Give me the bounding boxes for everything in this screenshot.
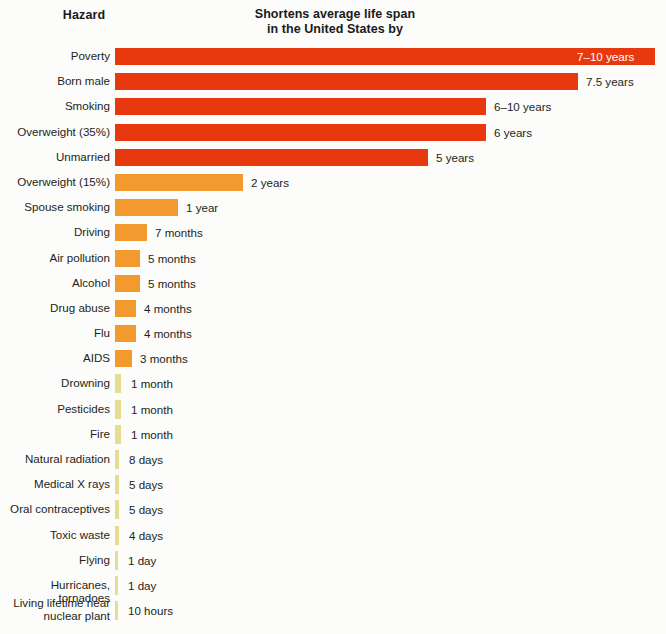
bar-row: Spouse smoking1 year bbox=[0, 195, 666, 220]
bar-row: Fire1 month bbox=[0, 422, 666, 447]
bar bbox=[115, 425, 121, 444]
bar-value-label: 4 months bbox=[144, 302, 192, 315]
bar bbox=[115, 275, 140, 292]
bar-row: AIDS3 months bbox=[0, 346, 666, 371]
bar bbox=[115, 98, 486, 115]
bar-row-label: Air pollution bbox=[0, 251, 110, 264]
bar-value-label: 6 years bbox=[494, 126, 532, 139]
bar-row-label: Toxic waste bbox=[0, 528, 110, 541]
bar-value-label: 1 month bbox=[131, 403, 173, 416]
life-span-hazard-chart: Hazard Shortens average life span in the… bbox=[0, 0, 666, 634]
bar bbox=[115, 300, 136, 317]
bar-row: Natural radiation8 days bbox=[0, 447, 666, 472]
bar-value-label: 1 month bbox=[131, 377, 173, 390]
bar-row-label: Pesticides bbox=[0, 402, 110, 415]
bar-value-label: 10 hours bbox=[128, 604, 173, 617]
bar-row-label: Natural radiation bbox=[0, 452, 110, 465]
bar bbox=[115, 374, 121, 393]
bar bbox=[115, 149, 428, 166]
bar-row: Smoking6–10 years bbox=[0, 94, 666, 119]
bar-value-label: 7–10 years bbox=[577, 50, 634, 63]
bar-row: Driving7 months bbox=[0, 220, 666, 245]
bar-row-label: Smoking bbox=[0, 99, 110, 112]
bar-value-label: 2 years bbox=[251, 176, 289, 189]
bar-value-label: 7 months bbox=[155, 226, 203, 239]
bar bbox=[115, 73, 578, 90]
bar-value-label: 1 month bbox=[131, 428, 173, 441]
bar-value-label: 5 days bbox=[129, 478, 163, 491]
bar bbox=[115, 450, 119, 469]
bar-row: Medical X rays5 days bbox=[0, 472, 666, 497]
bar-row: Oral contraceptives5 days bbox=[0, 497, 666, 522]
bar bbox=[115, 526, 119, 545]
bar-value-label: 4 days bbox=[129, 529, 163, 542]
bar-row: Toxic waste4 days bbox=[0, 523, 666, 548]
column-header-hazard: Hazard bbox=[0, 8, 168, 22]
bar-row: Drowning1 month bbox=[0, 371, 666, 396]
bar bbox=[115, 350, 132, 367]
bar-value-label: 7.5 years bbox=[586, 75, 634, 88]
bar-row: Drug abuse4 months bbox=[0, 296, 666, 321]
bar bbox=[115, 500, 119, 519]
bar-row-label: Born male bbox=[0, 74, 110, 87]
chart-title-line-1: Shortens average life span bbox=[170, 7, 500, 22]
bar-row-label: Overweight (35%) bbox=[0, 125, 110, 138]
bar bbox=[115, 325, 136, 342]
bar-row: Flu4 months bbox=[0, 321, 666, 346]
bar bbox=[115, 400, 121, 419]
bar bbox=[115, 551, 118, 570]
bar bbox=[115, 124, 486, 141]
bar-row: Poverty7–10 years bbox=[0, 44, 666, 69]
chart-title: Shortens average life span in the United… bbox=[170, 7, 500, 36]
bar-row: Overweight (35%)6 years bbox=[0, 120, 666, 145]
bar-row-label: Flying bbox=[0, 553, 110, 566]
bar bbox=[115, 601, 118, 620]
bar-value-label: 1 day bbox=[128, 579, 156, 592]
bar-row-label: Unmarried bbox=[0, 150, 110, 163]
bar-row-label: Spouse smoking bbox=[0, 200, 110, 213]
bar bbox=[115, 250, 140, 267]
bar-row: Air pollution5 months bbox=[0, 246, 666, 271]
bar-row-label: Oral contraceptives bbox=[0, 502, 110, 515]
bar bbox=[115, 48, 655, 65]
bar-row-label: Driving bbox=[0, 225, 110, 238]
bar-rows: Poverty7–10 yearsBorn male7.5 yearsSmoki… bbox=[0, 44, 666, 623]
chart-title-line-2: in the United States by bbox=[170, 22, 500, 37]
bar bbox=[115, 576, 118, 595]
bar-row: Unmarried5 years bbox=[0, 145, 666, 170]
bar-value-label: 3 months bbox=[140, 352, 188, 365]
bar-value-label: 6–10 years bbox=[494, 100, 551, 113]
bar-row: Alcohol5 months bbox=[0, 271, 666, 296]
bar-row-label: Drug abuse bbox=[0, 301, 110, 314]
bar-row: Pesticides1 month bbox=[0, 397, 666, 422]
bar bbox=[115, 475, 119, 494]
bar-value-label: 4 months bbox=[144, 327, 192, 340]
bar-row: Overweight (15%)2 years bbox=[0, 170, 666, 195]
bar-row-label: Overweight (15%) bbox=[0, 175, 110, 188]
bar-value-label: 1 year bbox=[186, 201, 218, 214]
bar bbox=[115, 174, 243, 191]
bar-row: Hurricanes, tornadoes1 day bbox=[0, 573, 666, 598]
bar-value-label: 5 days bbox=[129, 503, 163, 516]
bar-row: Flying1 day bbox=[0, 548, 666, 573]
bar bbox=[115, 199, 178, 216]
bar-row-label: Drowning bbox=[0, 376, 110, 389]
bar-row-label: Alcohol bbox=[0, 276, 110, 289]
bar-value-label: 8 days bbox=[129, 453, 163, 466]
bar-value-label: 5 months bbox=[148, 252, 196, 265]
chart-header: Hazard Shortens average life span in the… bbox=[0, 0, 666, 44]
bar-value-label: 5 years bbox=[436, 151, 474, 164]
bar-value-label: 1 day bbox=[128, 554, 156, 567]
bar-row-label: Medical X rays bbox=[0, 477, 110, 490]
bar-row-label: Living lifetime near nuclear plant bbox=[0, 596, 110, 622]
bar-row-label: Poverty bbox=[0, 49, 110, 62]
bar-row: Living lifetime near nuclear plant10 hou… bbox=[0, 598, 666, 623]
bar-row-label: Flu bbox=[0, 326, 110, 339]
bar-row-label: Fire bbox=[0, 427, 110, 440]
bar-value-label: 5 months bbox=[148, 277, 196, 290]
bar-row: Born male7.5 years bbox=[0, 69, 666, 94]
bar-row-label: AIDS bbox=[0, 351, 110, 364]
bar bbox=[115, 224, 147, 241]
